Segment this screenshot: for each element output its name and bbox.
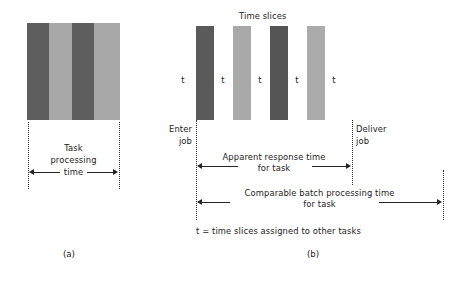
apparent-rule-left	[202, 166, 238, 167]
comparable-arrowhead-right	[437, 199, 442, 205]
figure-canvas: Task processing time (a) Time slices t t…	[0, 0, 457, 281]
enter-job-line2: job	[148, 136, 192, 147]
enter-job-line1: Enter	[148, 124, 192, 135]
stripe-light-1	[49, 23, 72, 120]
task-processing-block	[27, 23, 120, 120]
time-slice-bar-4	[307, 26, 325, 120]
apparent-rule-right	[312, 166, 346, 167]
comparable-rule-right	[379, 202, 437, 203]
stripe-dark-1	[27, 23, 49, 120]
slice-label-5: t	[325, 75, 343, 86]
task-time-rule-right	[87, 172, 113, 173]
time-slice-bar-1	[196, 26, 214, 120]
task-time-rule-left	[34, 172, 60, 173]
task-time-arrowhead-right	[113, 169, 118, 175]
slice-label-3: t	[251, 75, 269, 86]
task-processing-line2: processing	[28, 155, 119, 166]
stripe-light-2	[94, 23, 120, 120]
apparent-arrowhead-right	[346, 163, 351, 169]
apparent-response-line1: Apparent response time	[196, 152, 352, 163]
guide-deliver-job	[352, 120, 353, 185]
time-slices-title: Time slices	[239, 11, 286, 22]
comparable-rule-left	[202, 202, 230, 203]
guide-task-end	[119, 122, 120, 189]
comparable-batch-line1: Comparable batch processing time	[196, 188, 443, 199]
task-processing-line3: time	[28, 167, 119, 178]
panel-b-label: (b)	[307, 249, 319, 259]
slice-footnote: t = time slices assigned to other tasks	[196, 226, 361, 237]
deliver-job-line2: job	[356, 136, 369, 147]
time-slice-bar-3	[270, 26, 288, 120]
guide-batch-end	[443, 170, 444, 220]
panel-a-label: (a)	[63, 249, 75, 259]
slice-label-2: t	[214, 75, 232, 86]
time-slice-bar-2	[233, 26, 251, 120]
slice-label-4: t	[288, 75, 306, 86]
stripe-dark-2	[72, 23, 94, 120]
task-processing-line1: Task	[28, 143, 119, 154]
slice-label-1: t	[174, 75, 192, 86]
deliver-job-line1: Deliver	[356, 124, 387, 135]
